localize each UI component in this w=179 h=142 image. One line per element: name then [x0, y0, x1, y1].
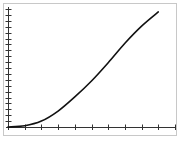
axes — [6, 7, 177, 130]
data-line — [8, 12, 158, 127]
line-chart — [0, 0, 179, 142]
